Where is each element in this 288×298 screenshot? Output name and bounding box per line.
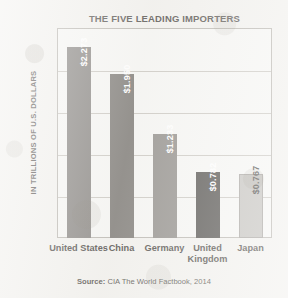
bar: $0.767 [239, 174, 263, 238]
bar-value-label: $1.233 [165, 125, 175, 154]
bar: $2.273 [67, 47, 91, 238]
source-note: Source: CIA The World Factbook, 2014 [0, 277, 288, 286]
source-text: CIA The World Factbook, 2014 [107, 277, 211, 286]
bar-value-label: $1.950 [122, 65, 132, 94]
bar: $1.950 [110, 74, 134, 238]
bar-slot: $0.767 [229, 28, 272, 238]
bar: $1.233 [153, 134, 177, 238]
bar-value-label: $0.767 [251, 165, 261, 194]
bar-value-label: $2.273 [79, 38, 89, 67]
bar-value-label: $0.782 [208, 163, 218, 192]
y-axis-title: IN TRILLIONS OF U.S. DOLLARS [29, 53, 38, 213]
chart-title: THE FIVE LEADING IMPORTERS [57, 13, 272, 24]
bar-slot: $2.273 [57, 28, 100, 238]
bar: $0.782 [196, 172, 220, 238]
source-label: Source: [77, 277, 105, 286]
bar-slot: $1.950 [100, 28, 143, 238]
bar-slot: $0.782 [186, 28, 229, 238]
x-tick-label: Japan [220, 243, 282, 254]
bar-slot: $1.233 [143, 28, 186, 238]
bar-series: $2.273$1.950$1.233$0.782$0.767 [57, 28, 272, 238]
